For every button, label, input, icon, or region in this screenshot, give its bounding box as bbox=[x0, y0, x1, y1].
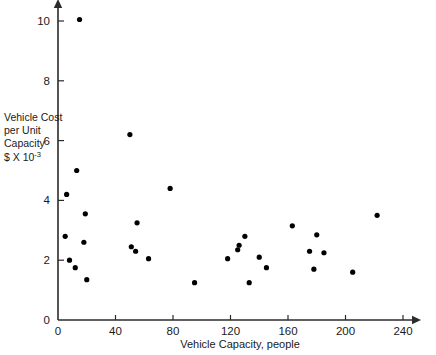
y-axis-label-exponent: -3 bbox=[34, 149, 41, 158]
tick-labels-group: 040801201602002400246810 bbox=[37, 15, 412, 337]
y-axis-label-line-1: Vehicle Cost bbox=[4, 111, 66, 124]
data-point bbox=[225, 256, 230, 261]
data-point bbox=[375, 213, 380, 218]
data-points-group bbox=[63, 17, 380, 285]
x-tick-label-240: 240 bbox=[393, 325, 412, 337]
y-axis-arrow-icon bbox=[54, 0, 62, 8]
x-tick-label-40: 40 bbox=[109, 325, 122, 337]
data-point bbox=[134, 220, 139, 225]
data-point bbox=[237, 243, 242, 248]
data-point bbox=[129, 244, 134, 249]
data-point bbox=[264, 265, 269, 270]
data-point bbox=[74, 168, 79, 173]
data-point bbox=[168, 186, 173, 191]
ticks-group bbox=[58, 21, 403, 320]
data-point bbox=[290, 223, 295, 228]
y-axis-label-line-2: per Unit bbox=[4, 124, 66, 137]
data-point bbox=[192, 280, 197, 285]
y-tick-label-0: 0 bbox=[44, 314, 50, 326]
y-tick-label-10: 10 bbox=[37, 15, 50, 27]
data-point bbox=[63, 234, 68, 239]
y-axis-label-units: $ X 10 bbox=[4, 151, 34, 163]
data-point bbox=[83, 211, 88, 216]
x-axis-label: Vehicle Capacity, people bbox=[0, 338, 436, 350]
data-point bbox=[257, 255, 262, 260]
x-axis-arrow-icon bbox=[412, 316, 421, 324]
y-tick-label-2: 2 bbox=[44, 254, 50, 266]
data-point bbox=[81, 240, 86, 245]
data-point bbox=[127, 132, 132, 137]
y-axis-label-line-4: $ X 10-3 bbox=[4, 151, 66, 164]
x-tick-label-120: 120 bbox=[221, 325, 240, 337]
data-point bbox=[321, 250, 326, 255]
data-point bbox=[146, 256, 151, 261]
data-point bbox=[314, 232, 319, 237]
data-point bbox=[67, 258, 72, 263]
data-point bbox=[77, 17, 82, 22]
y-tick-label-8: 8 bbox=[44, 75, 50, 87]
axes-group bbox=[54, 0, 421, 324]
x-tick-label-0: 0 bbox=[55, 325, 61, 337]
data-point bbox=[84, 277, 89, 282]
data-point bbox=[133, 249, 138, 254]
x-tick-label-160: 160 bbox=[278, 325, 297, 337]
data-point bbox=[242, 234, 247, 239]
data-point bbox=[64, 192, 69, 197]
data-point bbox=[235, 247, 240, 252]
data-point bbox=[307, 249, 312, 254]
plot-canvas: 040801201602002400246810 bbox=[0, 0, 436, 355]
data-point bbox=[350, 270, 355, 275]
data-point bbox=[73, 265, 78, 270]
x-tick-label-200: 200 bbox=[336, 325, 355, 337]
y-axis-label: Vehicle Cost per Unit Capacity $ X 10-3 bbox=[4, 111, 66, 164]
y-tick-label-4: 4 bbox=[44, 194, 51, 206]
data-point bbox=[311, 267, 316, 272]
x-tick-label-80: 80 bbox=[167, 325, 180, 337]
data-point bbox=[247, 280, 252, 285]
scatter-plot-figure: 040801201602002400246810 Vehicle Cost pe… bbox=[0, 0, 436, 355]
